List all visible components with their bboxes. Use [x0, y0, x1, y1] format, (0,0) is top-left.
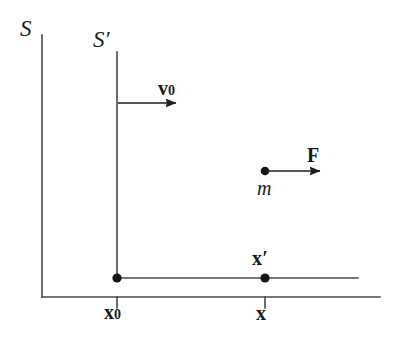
origin-point-dot	[112, 273, 121, 282]
position-label: x	[256, 303, 266, 323]
position-prime-label: x′	[252, 248, 268, 268]
position-point-dot	[260, 273, 269, 282]
velocity-vector-label: v0	[158, 78, 175, 98]
mass-point-dot	[261, 167, 270, 176]
force-vector-label: F	[307, 145, 319, 165]
diagram-canvas	[0, 0, 395, 348]
frame-label-S-prime: S′	[93, 28, 110, 51]
prime-mark-x: ′	[262, 247, 268, 269]
frame-label-S: S	[20, 17, 32, 40]
physics-diagram: S S′ v0 F m x′ x0 x	[0, 0, 395, 348]
velocity-subscript: 0	[168, 83, 175, 98]
mass-label: m	[257, 178, 271, 198]
position-initial-label: x0	[104, 302, 121, 322]
prime-mark-S: ′	[105, 27, 110, 52]
position-initial-subscript: 0	[114, 307, 121, 322]
